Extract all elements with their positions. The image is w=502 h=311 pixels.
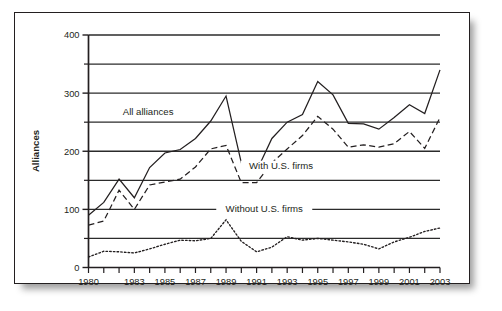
- y-tick-label: 300: [64, 89, 80, 99]
- x-tick-label: 2001: [399, 277, 420, 287]
- x-axis-tick-labels: 1980198319851987198919911993199519971999…: [78, 277, 450, 287]
- series-label-without-u-s-firms: Without U.S. firms: [226, 203, 303, 214]
- y-axis-title: Alliances: [30, 130, 41, 172]
- line-chart-plot: 0100200300400 19801983198519871989199119…: [0, 0, 502, 311]
- y-tick-label: 100: [64, 205, 80, 215]
- series-line-all-alliances: [89, 70, 441, 215]
- series-label-with-u-s-firms: With U.S. firms: [249, 160, 313, 171]
- x-tick-label: 1987: [185, 277, 206, 287]
- x-tick-label: 2003: [430, 277, 451, 287]
- x-tick-label: 1997: [338, 277, 359, 287]
- x-tick-label: 1999: [369, 277, 390, 287]
- series-label-all-alliances: All alliances: [123, 106, 174, 117]
- y-tick-label: 200: [64, 147, 80, 157]
- figure-root: 0100200300400 19801983198519871989199119…: [0, 0, 502, 311]
- x-tick-label: 1989: [216, 277, 237, 287]
- y-axis-ticks: [83, 35, 89, 268]
- x-tick-label: 1991: [246, 277, 267, 287]
- x-tick-label: 1983: [124, 277, 145, 287]
- y-tick-label: 0: [74, 263, 79, 273]
- x-tick-label: 1995: [307, 277, 328, 287]
- y-axis-tick-labels: 0100200300400: [64, 30, 80, 273]
- x-tick-label: 1985: [155, 277, 176, 287]
- x-tick-label: 1993: [277, 277, 298, 287]
- y-tick-label: 400: [64, 30, 80, 40]
- x-tick-label: 1980: [78, 277, 99, 287]
